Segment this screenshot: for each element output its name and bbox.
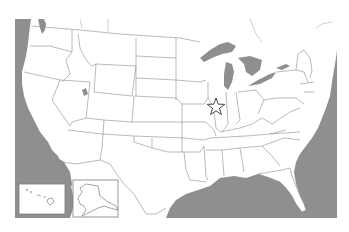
us-map: United States map xyxy=(0,0,349,232)
us-map-svg xyxy=(0,0,349,232)
hawaii-inset xyxy=(19,184,65,214)
alaska-inset xyxy=(73,180,118,217)
